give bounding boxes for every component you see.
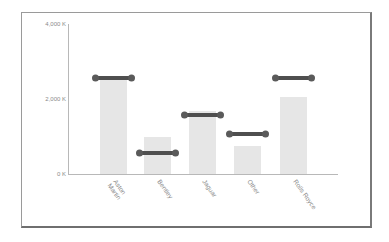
bar[interactable] — [189, 111, 216, 174]
x-axis — [68, 174, 338, 175]
y-tick-label: 2,000 K — [45, 96, 66, 102]
bar[interactable] — [280, 97, 307, 174]
bar[interactable] — [144, 137, 171, 175]
target-marker[interactable] — [229, 132, 266, 136]
y-tick-label: 0 K — [57, 171, 66, 177]
target-marker[interactable] — [139, 151, 176, 155]
target-marker[interactable] — [184, 113, 221, 117]
target-marker[interactable] — [95, 76, 132, 80]
bar[interactable] — [234, 146, 261, 175]
target-marker[interactable] — [275, 76, 312, 80]
bar[interactable] — [100, 80, 127, 174]
y-tick-label: 4,000 K — [45, 21, 66, 27]
y-axis — [68, 24, 69, 174]
